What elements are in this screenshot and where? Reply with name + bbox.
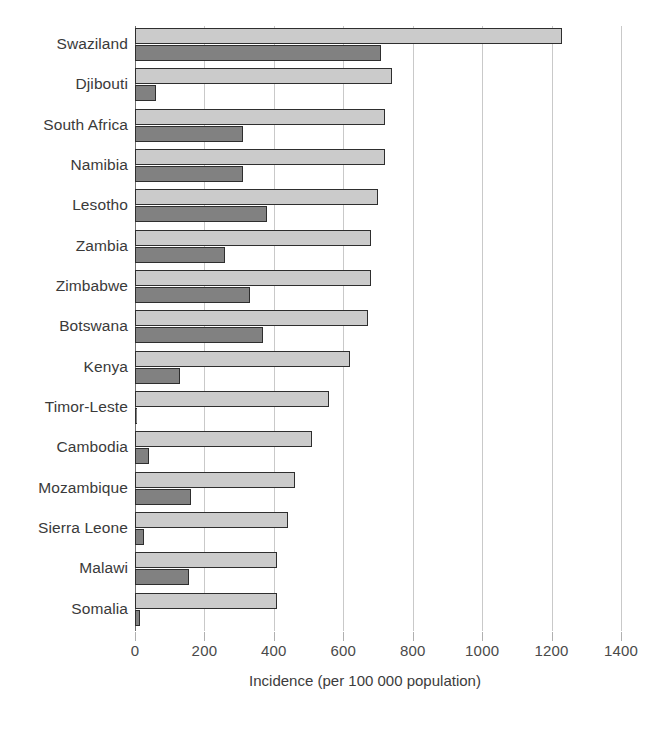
- bar-group: [135, 552, 621, 590]
- bar-series-dark: [135, 529, 144, 545]
- tick-mark-400: [274, 632, 275, 641]
- bar-series-dark: [135, 368, 180, 384]
- category-label: Botswana: [0, 317, 128, 335]
- x-tick-label-1400: 1400: [604, 642, 638, 659]
- bar-series-dark: [135, 85, 156, 101]
- gridline-1400: [621, 26, 622, 631]
- bar-series-dark: [135, 489, 191, 505]
- category-label: Kenya: [0, 358, 128, 376]
- x-tick-label-0: 0: [131, 642, 140, 659]
- bar-series-light: [135, 593, 277, 609]
- bar-group: [135, 68, 621, 106]
- bar-series-dark: [135, 126, 243, 142]
- bar-series-dark: [135, 166, 243, 182]
- tick-mark-1200: [552, 632, 553, 641]
- bar-series-light: [135, 351, 350, 367]
- bar-series-light: [135, 552, 277, 568]
- bar-series-dark: [135, 45, 381, 61]
- bar-series-dark: [135, 408, 137, 424]
- bar-series-light: [135, 431, 312, 447]
- category-label: Mozambique: [0, 479, 128, 497]
- category-label: Cambodia: [0, 438, 128, 456]
- plot-area: [135, 26, 621, 631]
- tick-mark-200: [204, 632, 205, 641]
- x-axis-title: Incidence (per 100 000 population): [0, 672, 660, 689]
- bar-series-light: [135, 391, 329, 407]
- x-tick-label-400: 400: [261, 642, 287, 659]
- bar-group: [135, 149, 621, 187]
- tick-mark-1000: [482, 632, 483, 641]
- tick-mark-600: [343, 632, 344, 641]
- bar-group: [135, 230, 621, 268]
- bar-group: [135, 351, 621, 389]
- incidence-bar-chart: 0200400600800100012001400 SwazilandDjibo…: [0, 0, 660, 738]
- bar-group: [135, 472, 621, 510]
- category-label: Djibouti: [0, 75, 128, 93]
- category-label: South Africa: [0, 116, 128, 134]
- category-label: Timor-Leste: [0, 398, 128, 416]
- bar-series-light: [135, 472, 295, 488]
- x-tick-label-200: 200: [192, 642, 218, 659]
- x-axis-title-text: Incidence (per 100 000 population): [179, 672, 481, 689]
- bar-series-dark: [135, 206, 267, 222]
- category-label: Namibia: [0, 156, 128, 174]
- x-tick-label-1200: 1200: [534, 642, 568, 659]
- x-tick-label-800: 800: [400, 642, 426, 659]
- category-label: Lesotho: [0, 196, 128, 214]
- tick-mark-1400: [621, 632, 622, 641]
- bar-series-light: [135, 109, 385, 125]
- bar-series-light: [135, 270, 371, 286]
- bar-series-dark: [135, 247, 225, 263]
- x-tick-label-1000: 1000: [465, 642, 499, 659]
- bar-series-dark: [135, 287, 250, 303]
- bar-series-dark: [135, 327, 263, 343]
- category-label: Zambia: [0, 237, 128, 255]
- bar-series-light: [135, 230, 371, 246]
- category-label: Malawi: [0, 559, 128, 577]
- category-label: Sierra Leone: [0, 519, 128, 537]
- bar-series-light: [135, 68, 392, 84]
- category-label: Somalia: [0, 600, 128, 618]
- bar-group: [135, 593, 621, 631]
- bar-series-light: [135, 28, 562, 44]
- bar-series-dark: [135, 610, 140, 626]
- bar-group: [135, 391, 621, 429]
- category-label: Swaziland: [0, 35, 128, 53]
- bar-series-light: [135, 512, 288, 528]
- bar-group: [135, 28, 621, 66]
- bar-series-dark: [135, 569, 189, 585]
- category-label: Zimbabwe: [0, 277, 128, 295]
- x-tick-label-600: 600: [330, 642, 356, 659]
- bar-series-light: [135, 310, 368, 326]
- bar-series-dark: [135, 448, 149, 464]
- tick-mark-800: [413, 632, 414, 641]
- bar-group: [135, 189, 621, 227]
- bar-group: [135, 270, 621, 308]
- bar-series-light: [135, 189, 378, 205]
- bar-group: [135, 310, 621, 348]
- tick-mark-0: [135, 632, 136, 641]
- bar-series-light: [135, 149, 385, 165]
- bar-group: [135, 431, 621, 469]
- bar-group: [135, 512, 621, 550]
- bar-group: [135, 109, 621, 147]
